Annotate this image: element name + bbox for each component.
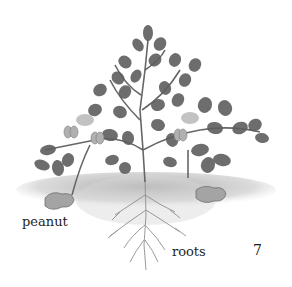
leaves — [33, 25, 270, 177]
label-peanut: peanut — [22, 215, 68, 228]
page-number: 7 — [253, 243, 262, 257]
label-roots: roots — [172, 245, 206, 258]
peanut-plant-illustration — [0, 0, 292, 287]
